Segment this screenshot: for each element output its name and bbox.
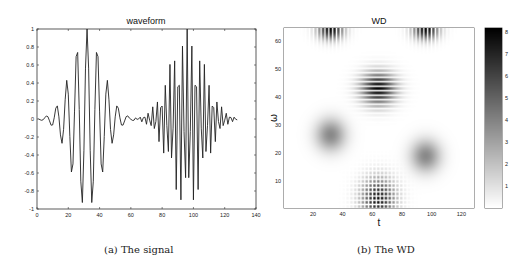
colorbar-tick-label: 8 — [505, 29, 508, 35]
waveform-title: waveform — [125, 16, 165, 26]
y-tick-label: -1 — [29, 206, 34, 212]
colorbar-tick-label: 7 — [505, 51, 508, 57]
y-tick-label: 1 — [31, 26, 34, 32]
colorbar — [485, 28, 502, 208]
x-tick-label: 80 — [159, 212, 165, 218]
y-tick-label: -0.2 — [25, 134, 34, 140]
caption-a: (a) The signal — [104, 244, 173, 255]
x-tick-label: 40 — [97, 212, 103, 218]
wd-ylabel: ω — [268, 114, 279, 122]
colorbar-tick-label: 5 — [505, 95, 508, 101]
y-tick-label: 0 — [31, 116, 34, 122]
x-tick-label: 100 — [427, 211, 436, 217]
colorbar-tick-label: 3 — [505, 139, 508, 145]
x-tick-label: 0 — [35, 212, 38, 218]
x-tick-label: 60 — [369, 211, 375, 217]
wd-heatmap — [284, 28, 474, 208]
colorbar-tick-label: 6 — [505, 73, 508, 79]
x-tick-label: 60 — [128, 212, 134, 218]
x-tick-label: 20 — [65, 212, 71, 218]
caption-b: (b) The WD — [357, 244, 415, 255]
x-tick-label: 40 — [340, 211, 346, 217]
wd-xlabel: t — [378, 217, 381, 228]
colorbar-tick-label: 2 — [505, 161, 508, 167]
y-tick-label: 0.2 — [26, 98, 34, 104]
y-tick-label: -0.8 — [25, 188, 34, 194]
colorbar-tick-label: 4 — [505, 117, 508, 123]
y-tick-label: 0.6 — [26, 62, 34, 68]
x-tick-label: 120 — [457, 211, 466, 217]
waveform-axes — [37, 29, 256, 209]
y-tick-label: 10 — [275, 178, 281, 184]
x-tick-label: 100 — [189, 212, 198, 218]
x-tick-label: 20 — [310, 211, 316, 217]
x-tick-label: 140 — [251, 212, 260, 218]
x-tick-label: 80 — [399, 211, 405, 217]
colorbar-tick-label: 1 — [505, 183, 508, 189]
y-tick-label: 20 — [275, 150, 281, 156]
y-tick-label: -0.6 — [25, 170, 34, 176]
y-tick-label: 50 — [275, 66, 281, 72]
y-tick-label: 0.4 — [26, 80, 34, 86]
x-tick-label: 120 — [220, 212, 229, 218]
wd-title: WD — [372, 16, 387, 26]
y-tick-label: 0.8 — [26, 44, 34, 50]
y-tick-label: 60 — [275, 38, 281, 44]
waveform-plot: waveform 020406080100120140-1-0.8-0.6-0.… — [25, 16, 261, 218]
y-tick-label: -0.4 — [25, 152, 34, 158]
y-tick-label: 40 — [275, 94, 281, 100]
